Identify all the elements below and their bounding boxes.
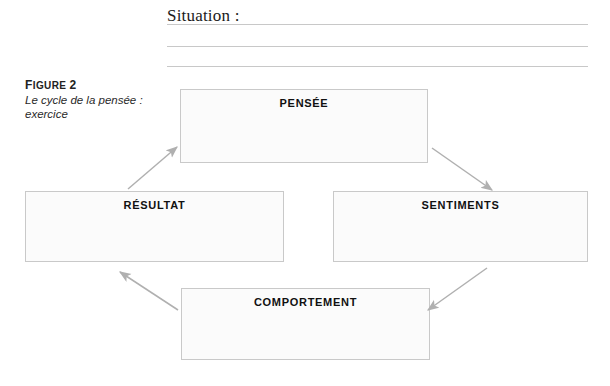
figure-caption-subtitle: Le cycle de la pensée : exercice [25, 93, 165, 121]
diagram-arrow-comportement-to-resultat [120, 272, 178, 310]
diagram-node-comportement-label: COMPORTEMENT [182, 296, 429, 308]
figure-caption-word: IGURE [33, 80, 67, 91]
figure-caption: FIGURE 2 Le cycle de la pensée : exercic… [25, 79, 165, 121]
diagram-arrow-pensee-to-sentiments [432, 148, 492, 190]
diagram-arrow-sentiments-to-comportement [428, 268, 487, 310]
diagram-node-pensee-label: PENSÉE [181, 97, 427, 109]
diagram-arrow-resultat-to-pensee [128, 147, 177, 189]
diagram-node-sentiments-label: SENTIMENTS [334, 199, 587, 211]
diagram-node-sentiments[interactable]: SENTIMENTS [333, 191, 588, 262]
figure-caption-subtitle-line-1: Le cycle de la pensée : [25, 94, 143, 106]
situation-label: Situation : [167, 6, 240, 26]
figure-caption-prefix: F [25, 78, 33, 92]
figure-caption-title: FIGURE 2 [25, 79, 165, 92]
figure-caption-subtitle-line-2: exercice [25, 108, 68, 120]
diagram-node-pensee[interactable]: PENSÉE [180, 89, 428, 163]
writing-rule-line-3 [167, 66, 588, 67]
figure-page: Situation : FIGURE 2 Le cycle de la pens… [0, 0, 610, 386]
figure-caption-number: 2 [70, 78, 77, 92]
diagram-node-resultat-label: RÉSULTAT [26, 199, 283, 211]
diagram-node-comportement[interactable]: COMPORTEMENT [181, 288, 430, 360]
writing-rule-line-2 [167, 46, 588, 47]
writing-rule-line-1 [167, 24, 588, 25]
diagram-node-resultat[interactable]: RÉSULTAT [25, 191, 284, 262]
